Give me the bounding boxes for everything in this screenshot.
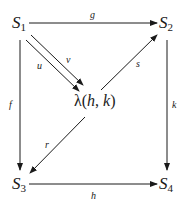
label-h: h [91,191,96,201]
node-s4-base: S [159,174,168,193]
node-s1-base: S [12,13,21,32]
node-s3: S3 [12,175,26,194]
node-s4: S4 [159,175,173,194]
node-s2: S2 [159,14,173,33]
node-s2-sub: 2 [168,21,174,33]
label-k: k [172,100,176,110]
arrow-u [26,40,79,91]
label-g: g [90,10,95,20]
node-s3-sub: 3 [21,182,27,194]
node-s2-base: S [159,13,168,32]
node-s1-sub: 1 [21,21,27,33]
node-s4-sub: 4 [168,182,174,194]
label-v: v [66,55,70,65]
node-lambda: λ(h, k) [74,93,116,109]
label-s: s [136,59,140,69]
node-s1: S1 [12,14,26,33]
label-f: f [9,100,12,110]
label-r: r [45,140,49,150]
lambda-sep: , [95,92,103,109]
arrow-r [30,117,85,173]
arrow-s [101,35,157,90]
lambda-arg-h: h [87,92,95,109]
lambda-close-paren: ) [110,92,115,109]
label-u: u [37,61,42,71]
commutative-diagram: S1 S2 S3 S4 λ(h, k) g f k h u v s r [0,0,187,206]
node-s3-base: S [12,174,21,193]
lambda-symbol: λ [74,92,82,109]
